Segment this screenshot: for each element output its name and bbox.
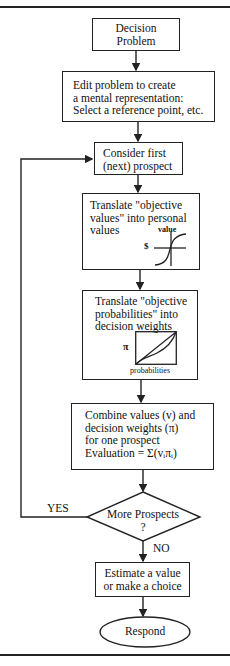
weighting-function-graph (135, 331, 177, 365)
translate-probs-line1: Translate "objective (95, 295, 197, 308)
edit-problem-node: Edit problem to create a mental represen… (62, 71, 215, 122)
value-graph-x-label: $ (144, 241, 149, 251)
edit-line2: a mental representation: (73, 92, 214, 105)
more-prospects-decision: More Prospects ? (93, 508, 193, 533)
weight-graph-y-label: π (123, 341, 128, 352)
combine-line2: decision weights (π) (85, 422, 213, 435)
yes-label: YES (47, 502, 69, 515)
no-label: NO (153, 542, 170, 555)
estimate-node: Estimate a value or make a choice (95, 562, 190, 597)
value-function-graph (150, 232, 190, 268)
combine-node: Combine values (v) and decision weights … (71, 403, 214, 470)
edit-line3: Select a reference point, etc. (73, 104, 214, 117)
decision-problem-node: Decision Problem (92, 18, 180, 51)
estimate-line1: Estimate a value (96, 567, 189, 580)
consider-line1: Consider first (103, 147, 182, 160)
edit-line1: Edit problem to create (73, 79, 214, 92)
consider-prospect-node: Consider first (next) prospect (94, 142, 183, 175)
consider-line2: (next) prospect (103, 160, 182, 173)
translate-probs-line2: probabilities" into (95, 308, 197, 321)
respond-terminal: Respond (100, 625, 190, 638)
decision-line2: ? (93, 521, 193, 534)
combine-line3: for one prospect (85, 434, 213, 447)
decision-problem-line2: Problem (93, 35, 179, 48)
decision-line1: More Prospects (93, 508, 193, 521)
decision-problem-line1: Decision (93, 22, 179, 35)
combine-line4: Evaluation = Σ(vᵢπᵢ) (85, 447, 213, 460)
translate-values-line1: Translate "objective (90, 199, 199, 212)
weight-graph-x-label: probabilities (130, 366, 170, 375)
translate-values-line2: values" into personal (90, 212, 199, 225)
estimate-line2: or make a choice (96, 580, 189, 593)
combine-line1: Combine values (v) and (85, 409, 213, 422)
